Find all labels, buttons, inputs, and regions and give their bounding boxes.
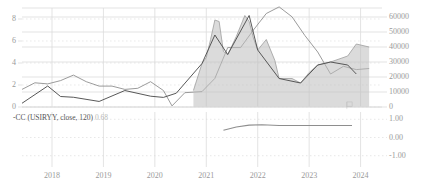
y-axis-right-tick-10000: 10000 [389,88,423,96]
y-axis-corr-tick--1.00: -1.00 [389,152,423,160]
y-axis-right-tick-50000: 50000 [389,28,423,36]
y-axis-corr-tick-0.00: 0.00 [389,134,423,142]
x-axis-tick-2023: 2023 [289,172,329,180]
y-axis-corr-tick-1.00: 1.00 [389,115,423,123]
x-axis-tick-2019: 2019 [83,172,123,180]
y-axis-right-tick-20000: 20000 [389,73,423,81]
y-axis-left-tick-2: 2 [0,81,16,89]
y-axis-right-tick-40000: 40000 [389,43,423,51]
y-axis-left-tick-8: 8 [0,15,16,23]
y-axis-left-tick-0: 0 [0,103,16,111]
chart-canvas[interactable] [0,0,424,192]
y-axis-left-tick-6: 6 [0,37,16,45]
flag-marker-icon[interactable] [345,101,354,110]
x-axis-tick-2024: 2024 [341,172,381,180]
correlation-legend[interactable]: -CC (USIRYY, close, 120) 0.68 [13,113,108,122]
x-axis-tick-2020: 2020 [135,172,175,180]
y-axis-right-tick-30000: 30000 [389,58,423,66]
x-axis-tick-2018: 2018 [32,172,72,180]
y-axis-right-tick-0: 0 [389,103,423,111]
chart-root: 0100002000030000400005000060000024682018… [0,0,424,192]
correlation-legend-value: 0.68 [95,113,108,122]
x-axis-tick-2022: 2022 [238,172,278,180]
y-axis-left-tick-4: 4 [0,59,16,67]
y-axis-right-tick-60000: 60000 [389,13,423,21]
correlation-legend-text: -CC (USIRYY, close, 120) [13,113,93,122]
x-axis-tick-2021: 2021 [186,172,226,180]
